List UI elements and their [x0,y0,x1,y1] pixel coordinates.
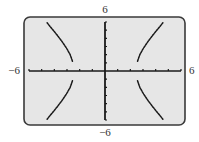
x-max-label: 6 [189,64,195,76]
x-min-label: −6 [8,64,20,76]
graph-chart: 6 −6 −6 6 [0,0,199,142]
y-max-label: 6 [102,3,108,15]
y-min-label: −6 [99,126,111,138]
